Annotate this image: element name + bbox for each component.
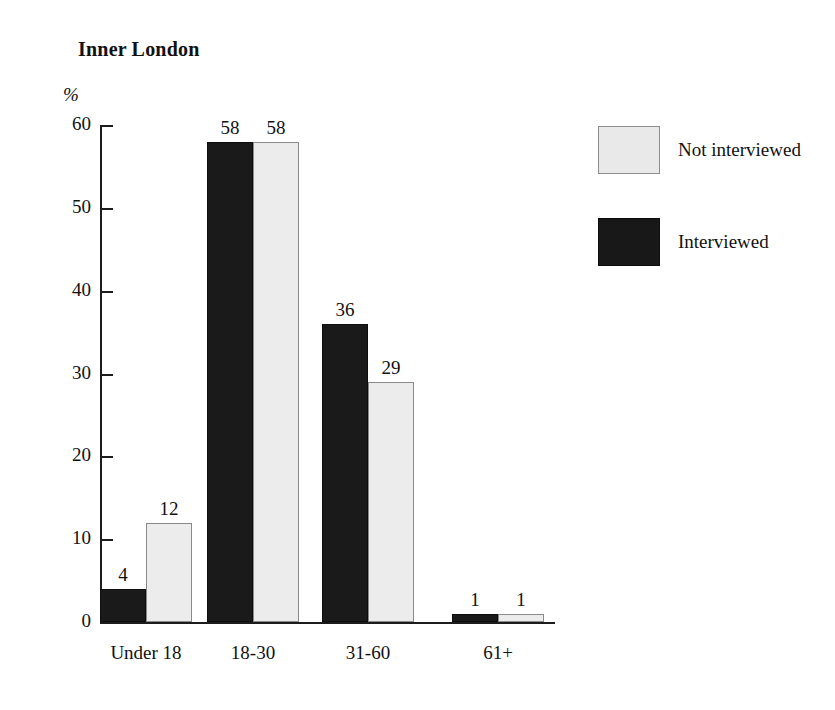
chart-title: Inner London — [78, 38, 200, 61]
y-axis-tick-mark — [102, 291, 113, 293]
legend-label: Not interviewed — [678, 139, 801, 161]
y-axis-tick-label: 30 — [72, 363, 91, 383]
bar-value-label: 4 — [118, 564, 128, 585]
legend-swatch-light — [598, 126, 660, 174]
bar-not-interviewed-under-18: 12 — [146, 523, 192, 622]
bar-value-label: 58 — [267, 117, 286, 138]
legend-item-interviewed[interactable]: Interviewed — [598, 218, 823, 266]
bar-interviewed-18-30: 58 — [207, 142, 253, 622]
bar-not-interviewed-18-30: 58 — [253, 142, 299, 622]
chart-legend: Not interviewedInterviewed — [598, 126, 823, 310]
bar-value-label: 1 — [516, 589, 526, 610]
plot-area: 0102030405060 4125858362911 — [100, 125, 555, 622]
x-axis-label-18-30: 18-30 — [231, 642, 275, 664]
legend-label: Interviewed — [678, 231, 769, 253]
bar-chart-figure: Inner London % 0102030405060 41258583629… — [0, 0, 835, 710]
bar-value-label: 12 — [160, 498, 179, 519]
bar-interviewed-61-: 1 — [452, 614, 498, 622]
bar-value-label: 1 — [470, 589, 480, 610]
y-axis-tick-mark — [102, 125, 113, 127]
y-axis-tick-label: 10 — [72, 528, 91, 548]
y-axis-tick-label: 60 — [72, 114, 91, 134]
bar-interviewed-31-60: 36 — [322, 324, 368, 622]
bar-not-interviewed-61-: 1 — [498, 614, 544, 622]
y-axis-tick-mark — [102, 456, 113, 458]
bar-value-label: 29 — [382, 357, 401, 378]
bar-value-label: 36 — [336, 299, 355, 320]
y-axis-tick-label: 0 — [82, 611, 92, 631]
y-axis-tick-mark — [102, 622, 113, 624]
x-axis-label-31-60: 31-60 — [346, 642, 390, 664]
x-axis-label-under-18: Under 18 — [110, 642, 181, 664]
y-axis-tick-label: 40 — [72, 280, 91, 300]
y-axis-tick-mark — [102, 374, 113, 376]
x-axis-label-61-: 61+ — [483, 642, 513, 664]
x-axis-line — [100, 622, 555, 624]
bar-value-label: 58 — [221, 117, 240, 138]
legend-swatch-dark — [598, 218, 660, 266]
y-axis-tick-mark — [102, 539, 113, 541]
y-axis-unit-label: % — [63, 84, 79, 106]
y-axis-tick-label: 20 — [72, 445, 91, 465]
y-axis-tick-mark — [102, 208, 113, 210]
y-axis-tick-label: 50 — [72, 197, 91, 217]
legend-item-not-interviewed[interactable]: Not interviewed — [598, 126, 823, 174]
bar-not-interviewed-31-60: 29 — [368, 382, 414, 622]
bar-interviewed-under-18: 4 — [100, 589, 146, 622]
